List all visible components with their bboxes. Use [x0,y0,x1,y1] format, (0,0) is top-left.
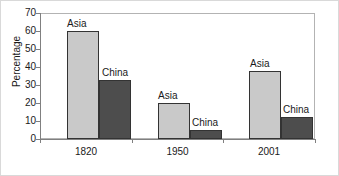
y-tick-label-20: 20 [16,98,36,108]
x-tick-label-1950: 1950 [132,146,223,157]
y-tick-label-40: 40 [16,62,36,72]
bar-label-asia-1950: Asia [158,90,177,101]
bar-china-1950[interactable] [190,130,222,139]
bar-label-asia-1820: Asia [67,18,86,29]
bar-label-asia-2001: Asia [250,58,269,69]
x-axis-line [40,139,316,140]
bars-layer: Asia China Asia China Asia China [40,13,315,139]
bar-label-china-1820: China [102,67,128,78]
bar-label-china-2001: China [283,104,309,115]
y-tick-label-10: 10 [16,116,36,126]
x-tick-label-1820: 1820 [40,146,132,157]
bar-asia-1950[interactable] [158,103,190,139]
x-tick-mark-start [40,139,41,143]
y-tick-label-0: 0 [16,134,36,144]
bar-china-2001[interactable] [281,117,313,139]
chart-screenshot: Percentage 70 60 50 40 30 20 10 0 Asia C… [0,0,339,176]
y-axis-tick-labels: 70 60 50 40 30 20 10 0 [14,0,36,176]
x-tick-mark-sep-1 [132,139,133,143]
bar-china-1820[interactable] [99,80,131,139]
x-tick-mark-end [315,139,316,143]
bar-asia-1820[interactable] [67,31,99,139]
y-tick-label-50: 50 [16,44,36,54]
bar-asia-2001[interactable] [249,71,281,139]
y-tick-label-60: 60 [16,26,36,36]
y-tick-label-30: 30 [16,80,36,90]
x-tick-mark-sep-2 [223,139,224,143]
y-tick-label-70: 70 [16,8,36,18]
x-tick-label-2001: 2001 [223,146,315,157]
bar-label-china-1950: China [192,117,218,128]
